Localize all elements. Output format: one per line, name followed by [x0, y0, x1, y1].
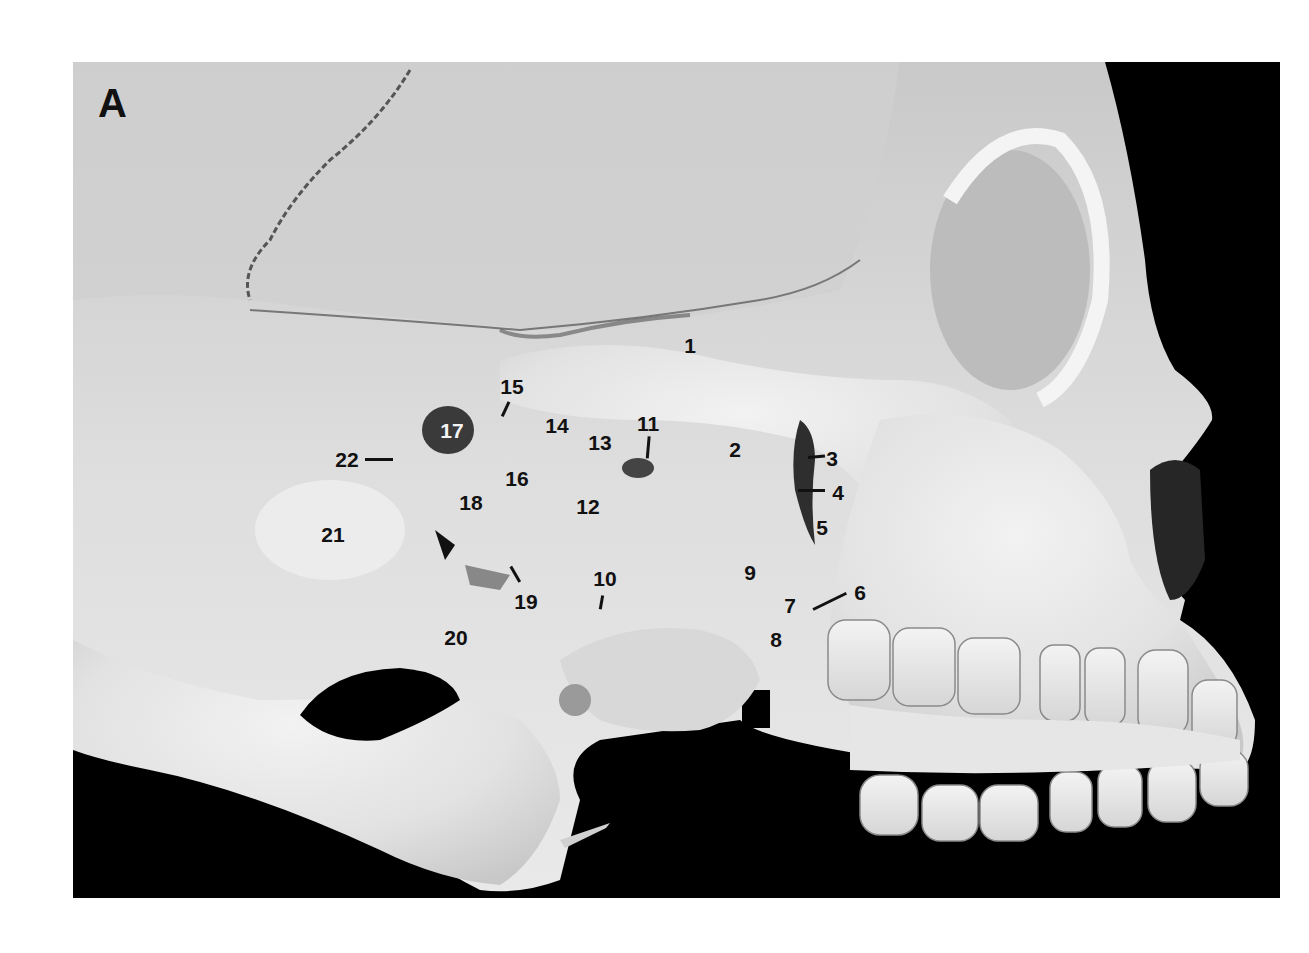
- posterior-gap: [600, 735, 770, 770]
- label-22: 22: [335, 449, 358, 470]
- label-8: 8: [770, 629, 782, 650]
- label-9: 9: [744, 562, 756, 583]
- leader-line-22: [365, 458, 393, 461]
- label-14: 14: [545, 415, 568, 436]
- label-5: 5: [816, 517, 828, 538]
- label-2: 2: [729, 439, 741, 460]
- label-15: 15: [500, 376, 523, 397]
- label-18: 18: [459, 492, 482, 513]
- label-1: 1: [684, 335, 696, 356]
- label-4: 4: [832, 482, 844, 503]
- cranial-vault-shading: [73, 62, 900, 330]
- foramen-11: [622, 458, 654, 478]
- label-6: 6: [854, 582, 866, 603]
- skull-figure-panel: A: [73, 62, 1280, 898]
- label-3: 3: [826, 448, 838, 469]
- label-13: 13: [588, 432, 611, 453]
- label-10: 10: [593, 568, 616, 589]
- label-16: 16: [505, 468, 528, 489]
- label-11: 11: [637, 413, 659, 434]
- panel-letter: A: [98, 83, 127, 123]
- label-19: 19: [514, 591, 537, 612]
- skull-illustration: [73, 62, 1280, 898]
- label-20: 20: [444, 627, 467, 648]
- label-7: 7: [784, 595, 796, 616]
- leader-line-4: [798, 489, 825, 492]
- round-tubercle: [559, 684, 591, 716]
- label-21: 21: [321, 524, 344, 545]
- label-12: 12: [576, 496, 599, 517]
- label-17: 17: [440, 420, 463, 441]
